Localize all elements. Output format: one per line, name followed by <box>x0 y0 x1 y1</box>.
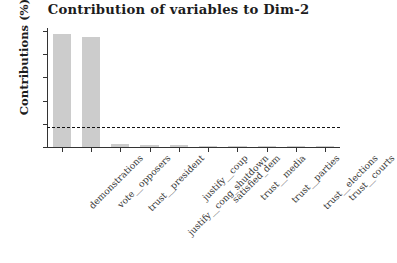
reference-line-dashed <box>47 127 340 128</box>
x-tick-mark <box>150 148 151 152</box>
y-tick-mark <box>43 54 47 55</box>
bar <box>316 146 334 147</box>
y-axis-line <box>47 28 48 147</box>
x-tick-mark <box>62 148 63 152</box>
y-tick-mark <box>43 77 47 78</box>
x-tick-mark <box>237 148 238 152</box>
bar <box>140 145 158 147</box>
plot-area: 01020304050 <box>47 31 340 147</box>
y-tick-mark <box>43 147 47 148</box>
x-tick-mark <box>120 148 121 152</box>
y-axis-title: Contributions (%) <box>17 0 31 122</box>
bar <box>199 146 217 147</box>
x-tick-mark <box>179 148 180 152</box>
y-tick-mark <box>43 101 47 102</box>
bar <box>170 145 188 147</box>
bar <box>53 34 71 147</box>
y-tick-mark <box>43 124 47 125</box>
x-tick-mark <box>91 148 92 152</box>
y-tick-mark <box>43 31 47 32</box>
x-tick-mark <box>296 148 297 152</box>
bar <box>228 146 246 147</box>
bar <box>111 144 129 147</box>
chart-title: Contribution of variables to Dim-2 <box>0 2 357 17</box>
bar <box>258 146 276 147</box>
bar <box>82 37 100 147</box>
x-tick-mark <box>208 148 209 152</box>
x-tick-mark <box>267 148 268 152</box>
x-tick-mark <box>325 148 326 152</box>
bar <box>287 146 305 147</box>
